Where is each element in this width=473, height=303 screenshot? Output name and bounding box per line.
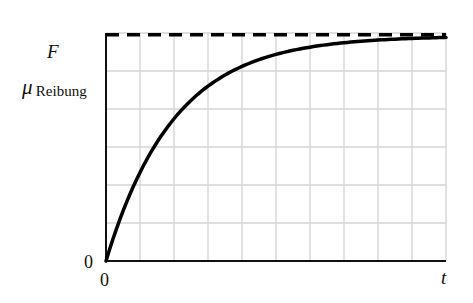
x-origin-label: 0 — [100, 270, 109, 290]
x-axis-label: t — [441, 267, 447, 288]
mu-subscript: Reibung — [36, 83, 87, 99]
mu-symbol: μ — [21, 75, 33, 99]
y-origin-label: 0 — [84, 252, 93, 272]
friction-force-chart: F μ Reibung 0 0 t — [0, 0, 473, 303]
grid-lines — [106, 33, 446, 261]
mu-reibung-label: μ Reibung — [21, 75, 87, 99]
y-axis-label: F — [46, 41, 59, 62]
